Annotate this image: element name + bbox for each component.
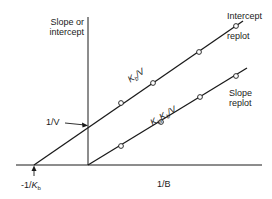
y-axis-label: Slope or intercept [48,17,84,37]
data-point-marker [234,74,239,79]
y-intercept-label: 1/V [46,117,60,127]
intercept-replot-title: Intercept [227,11,262,21]
data-point-marker [151,81,156,86]
replot-diagram: Slope or intercept 1/V -1/Kb 1/B Interce… [0,0,272,199]
intercept-replot-line [34,21,243,165]
slope-replot-subtitle: replot [229,98,252,108]
data-point-marker [119,144,124,149]
x-axis-label: 1/B [157,179,171,189]
intercept-replot-subtitle: replot [227,31,250,41]
data-point-marker [198,95,203,100]
data-point-marker [197,50,202,55]
y-axis-label-line1: Slope or [48,17,84,27]
x-intercept-prefix: -1/ [21,180,32,190]
data-point-marker [234,24,239,29]
slope-replot-title: Slope [229,88,252,98]
x-intercept-sub: b [38,185,41,191]
y-intercept-arrow [65,123,88,128]
data-point-marker [119,101,124,106]
x-intercept-label: -1/Kb [21,180,41,193]
x-intercept-arrow [32,166,37,177]
y-axis-label-line2: intercept [48,27,84,37]
